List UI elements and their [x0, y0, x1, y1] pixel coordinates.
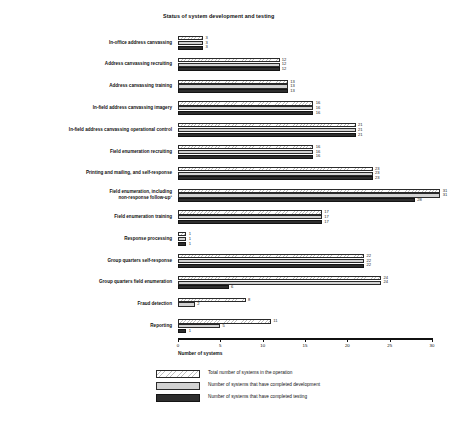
- category-label-holder: Group quarters self-response: [22, 258, 174, 263]
- category-label-holder: Field enumeration, including non-respons…: [22, 189, 174, 200]
- bar-value-label: 21: [358, 133, 363, 137]
- bar-value-label: 22: [366, 263, 371, 267]
- category-label: Response processing: [22, 236, 172, 241]
- bar-value-label: 13: [290, 89, 295, 93]
- bar-value-label: 16: [316, 111, 321, 115]
- category-label-holder: Group quarters field enumeration: [22, 279, 174, 284]
- bar-total: [178, 276, 381, 280]
- bar-test: [178, 220, 322, 224]
- category-label-holder: Address canvassing recruiting: [22, 61, 174, 66]
- bar-test: [178, 67, 280, 71]
- legend-label: Number of systems that have completed te…: [208, 394, 307, 399]
- bar-dev: [178, 302, 195, 306]
- bar-dev: [178, 193, 440, 197]
- bar-value-label: 31: [443, 193, 448, 197]
- bar-value-label: 1: [189, 242, 191, 246]
- x-axis-tick-label: 0: [177, 343, 179, 348]
- bar-test: [178, 198, 415, 202]
- bar-value-label: 16: [316, 154, 321, 158]
- legend-label: Total number of systems in the operation: [208, 370, 292, 375]
- bar-total: [178, 167, 373, 171]
- chart-bar-group: 24246: [178, 276, 432, 290]
- chart-bar-group: 1151: [178, 319, 432, 333]
- chart-bar-group: 161616: [178, 101, 432, 115]
- bar-dev: [178, 150, 313, 154]
- bar-test: [178, 46, 203, 50]
- chart-bar-group: 82: [178, 298, 432, 312]
- legend-swatch-test: [156, 394, 200, 402]
- x-axis-tick: [347, 340, 348, 342]
- bar-total: [178, 189, 440, 193]
- bar-total: [178, 123, 356, 127]
- bar-value-label: 11: [273, 319, 277, 323]
- category-label-holder: Response processing: [22, 236, 174, 241]
- bar-total: [178, 232, 186, 236]
- legend-swatch-dev: [156, 382, 200, 390]
- category-label-holder: Address canvassing training: [22, 83, 174, 88]
- chart-bar-group: 212121: [178, 123, 432, 137]
- bar-value-label: 1: [189, 329, 191, 333]
- bar-value-label: 6: [231, 285, 233, 289]
- bar-dev: [178, 281, 381, 285]
- chart-container: Status of system development and testing…: [0, 0, 458, 424]
- bar-test: [178, 133, 356, 137]
- chart-legend: Total number of systems in the operation…: [156, 368, 446, 404]
- bar-dev: [178, 259, 364, 263]
- bar-test: [178, 242, 186, 246]
- chart-bar-group: 171717: [178, 210, 432, 224]
- category-label: Address canvassing recruiting: [22, 61, 172, 66]
- x-axis-tick: [305, 340, 306, 342]
- bar-value-label: 28: [417, 198, 422, 202]
- chart-title: Status of system development and testing: [163, 13, 274, 19]
- bar-total: [178, 58, 280, 62]
- legend-item: Total number of systems in the operation: [156, 368, 446, 380]
- bar-dev: [178, 84, 288, 88]
- bar-total: [178, 80, 288, 84]
- legend-label: Number of systems that have completed de…: [208, 382, 320, 387]
- bar-value-label: 8: [248, 298, 250, 302]
- chart-bar-group: 131313: [178, 80, 432, 94]
- category-label-holder: Field enumeration training: [22, 214, 174, 219]
- bar-test: [178, 155, 313, 159]
- category-label: In-field address canvassing imagery: [22, 105, 172, 110]
- bar-total: [178, 254, 364, 258]
- bar-dev: [178, 215, 322, 219]
- category-label-holder: Field enumeration recruiting: [22, 149, 174, 154]
- bar-test: [178, 329, 186, 333]
- legend-item: Number of systems that have completed de…: [156, 380, 446, 392]
- category-label: In-office address canvassing: [22, 40, 172, 45]
- category-label: Fraud detection: [22, 301, 172, 306]
- category-label: Field enumeration, including non-respons…: [22, 189, 172, 200]
- bar-dev: [178, 324, 220, 328]
- category-label: Field enumeration recruiting: [22, 149, 172, 154]
- bar-dev: [178, 41, 203, 45]
- bar-total: [178, 101, 313, 105]
- bar-value-label: 17: [324, 220, 329, 224]
- category-label: Reporting: [22, 323, 172, 328]
- bar-value-label: 12: [282, 67, 287, 71]
- x-axis-tick-label: 15: [303, 343, 308, 348]
- bar-value-label: 3: [206, 45, 208, 49]
- bar-test: [178, 89, 288, 93]
- x-axis-tick: [220, 340, 221, 342]
- category-label-holder: In-field address canvassing operational …: [22, 127, 174, 132]
- bar-total: [178, 145, 313, 149]
- category-label-holder: Fraud detection: [22, 301, 174, 306]
- bar-total: [178, 298, 246, 302]
- chart-bar-group: 232323: [178, 167, 432, 181]
- category-label: Address canvassing training: [22, 83, 172, 88]
- chart-bar-group: 161616: [178, 145, 432, 159]
- bar-dev: [178, 63, 280, 67]
- bar-value-label: 23: [375, 176, 380, 180]
- x-axis-tick: [263, 340, 264, 342]
- chart-bar-group: 222222: [178, 254, 432, 268]
- bar-dev: [178, 128, 356, 132]
- x-axis-tick-label: 20: [345, 343, 350, 348]
- x-axis-tick-label: 25: [387, 343, 392, 348]
- chart-bar-group: 333: [178, 36, 432, 50]
- bar-dev: [178, 106, 313, 110]
- bar-total: [178, 210, 322, 214]
- legend-swatch-total: [156, 370, 200, 378]
- category-label-holder: Printing and mailing, and self-response: [22, 170, 174, 175]
- bar-value-label: 24: [383, 280, 388, 284]
